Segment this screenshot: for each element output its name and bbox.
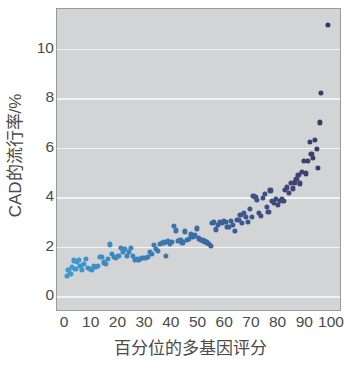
data-point bbox=[245, 219, 250, 224]
data-point bbox=[214, 227, 219, 232]
data-point bbox=[285, 185, 290, 190]
x-tick-label: 0 bbox=[60, 313, 69, 330]
data-point bbox=[249, 215, 254, 220]
data-point bbox=[298, 181, 303, 186]
y-tick-label: 4 bbox=[28, 189, 54, 205]
data-point bbox=[303, 171, 308, 176]
gridline-y bbox=[57, 98, 340, 100]
x-tick-label: 10 bbox=[82, 313, 99, 330]
data-point bbox=[84, 256, 89, 261]
x-tick-label: 40 bbox=[162, 313, 179, 330]
gridline-y bbox=[57, 197, 340, 199]
y-axis-tick-labels: 0246810 bbox=[26, 0, 54, 320]
x-tick-label: 30 bbox=[135, 313, 152, 330]
x-tick-label: 90 bbox=[296, 313, 313, 330]
y-axis-title-text: CAD的流行率/% bbox=[2, 93, 27, 217]
gridline-y bbox=[57, 296, 340, 298]
x-axis-tick-labels: 0102030405060708090100 bbox=[56, 313, 341, 335]
data-point bbox=[262, 192, 267, 197]
data-point bbox=[316, 165, 321, 170]
y-tick-label: 0 bbox=[28, 288, 54, 304]
x-tick-label: 50 bbox=[189, 313, 206, 330]
y-tick-label: 6 bbox=[28, 139, 54, 155]
data-point bbox=[80, 267, 85, 272]
data-point bbox=[76, 257, 81, 262]
data-point bbox=[314, 147, 319, 152]
data-point bbox=[312, 137, 317, 142]
data-point bbox=[105, 256, 110, 261]
x-tick-label: 20 bbox=[109, 313, 126, 330]
data-point bbox=[230, 222, 235, 227]
y-tick-label: 10 bbox=[28, 40, 54, 56]
data-point bbox=[247, 207, 252, 212]
data-point bbox=[258, 214, 263, 219]
gridline-y bbox=[57, 49, 340, 51]
data-point bbox=[290, 186, 295, 191]
gridline-y bbox=[57, 148, 340, 150]
data-point bbox=[281, 198, 286, 203]
data-point bbox=[232, 228, 237, 233]
y-tick-label: 8 bbox=[28, 89, 54, 105]
data-point bbox=[68, 271, 73, 276]
data-point bbox=[155, 249, 160, 254]
x-tick-label: 60 bbox=[216, 313, 233, 330]
x-tick-label: 80 bbox=[269, 313, 286, 330]
data-point bbox=[317, 120, 322, 125]
gridline-y bbox=[57, 247, 340, 249]
data-point bbox=[268, 188, 273, 193]
data-point bbox=[240, 220, 245, 225]
data-point bbox=[195, 226, 200, 231]
data-point bbox=[128, 245, 133, 250]
data-point bbox=[243, 214, 248, 219]
data-point bbox=[182, 229, 187, 234]
chart-figure: CAD的流行率/% 0246810 0102030405060708090100… bbox=[0, 0, 356, 365]
data-point bbox=[325, 23, 330, 28]
data-point bbox=[116, 254, 121, 259]
data-point bbox=[266, 209, 271, 214]
y-tick-label: 2 bbox=[28, 238, 54, 254]
y-axis-title: CAD的流行率/% bbox=[0, 0, 28, 310]
data-point bbox=[95, 264, 100, 269]
data-point bbox=[149, 251, 154, 256]
data-point bbox=[169, 239, 174, 244]
data-point bbox=[305, 158, 310, 163]
plot-area bbox=[56, 8, 341, 311]
x-axis-title: 百分位的多基因评分 bbox=[40, 334, 340, 359]
x-tick-label: 100 bbox=[318, 313, 344, 330]
x-tick-label: 70 bbox=[242, 313, 259, 330]
data-point bbox=[307, 140, 312, 145]
data-point bbox=[104, 262, 109, 267]
data-point bbox=[255, 198, 260, 203]
data-point bbox=[311, 156, 316, 161]
data-point bbox=[319, 90, 324, 95]
data-point bbox=[163, 254, 168, 259]
data-point bbox=[286, 190, 291, 195]
data-point bbox=[173, 228, 178, 233]
data-point bbox=[124, 254, 129, 259]
